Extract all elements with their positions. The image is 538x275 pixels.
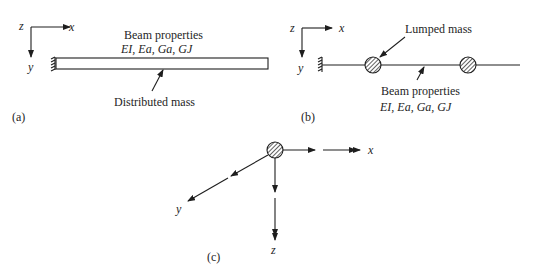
- x-axis-label: x: [68, 20, 75, 34]
- beam-properties-arrow: [417, 67, 424, 80]
- z-axis-label: z: [289, 21, 295, 35]
- caption-b: (b): [301, 110, 315, 124]
- y-axis-label: y: [297, 61, 304, 75]
- axes-a: z x y: [18, 19, 75, 74]
- lumped-mass-arrow: [380, 37, 405, 57]
- lumped-mass-2: [460, 57, 476, 73]
- lumped-mass-label: Lumped mass: [405, 22, 472, 36]
- axes-b: z x y: [289, 21, 345, 75]
- beam-properties-label: Beam properties: [124, 28, 203, 42]
- caption-c: (c): [207, 250, 220, 264]
- distributed-mass-arrow: [152, 70, 163, 91]
- panel-c: x y z (c): [175, 142, 374, 264]
- wall-support-icon: [318, 57, 322, 72]
- beam-model-diagram: z x y Beam properties EI, Ea, Ga, GJ Dis…: [0, 0, 538, 275]
- distributed-mass-label: Distributed mass: [114, 95, 195, 109]
- y-axis-label: y: [175, 202, 182, 216]
- panel-b: z x y Lumped mass Beam properties EI, Ea…: [289, 21, 520, 124]
- beam-properties-values: EI, Ea, Ga, GJ: [120, 42, 193, 56]
- x-axis-label: x: [367, 143, 374, 157]
- caption-a: (a): [12, 110, 25, 124]
- lumped-mass-1: [365, 57, 381, 73]
- beam-properties-label: Beam properties: [381, 84, 460, 98]
- wall-support-icon: [51, 57, 55, 71]
- panel-a: z x y Beam properties EI, Ea, Ga, GJ Dis…: [12, 19, 268, 124]
- y-axis-label: y: [27, 60, 34, 74]
- y-axis-arrow-segment-1: [231, 155, 268, 176]
- y-axis-arrow-segment-2: [188, 178, 228, 201]
- z-axis-label: z: [18, 19, 24, 33]
- beam-properties-values: EI, Ea, Ga, GJ: [379, 100, 452, 114]
- beam: [56, 58, 268, 69]
- x-axis-label: x: [338, 21, 345, 35]
- lumped-mass-node: [267, 142, 283, 158]
- z-axis-label: z: [270, 243, 276, 257]
